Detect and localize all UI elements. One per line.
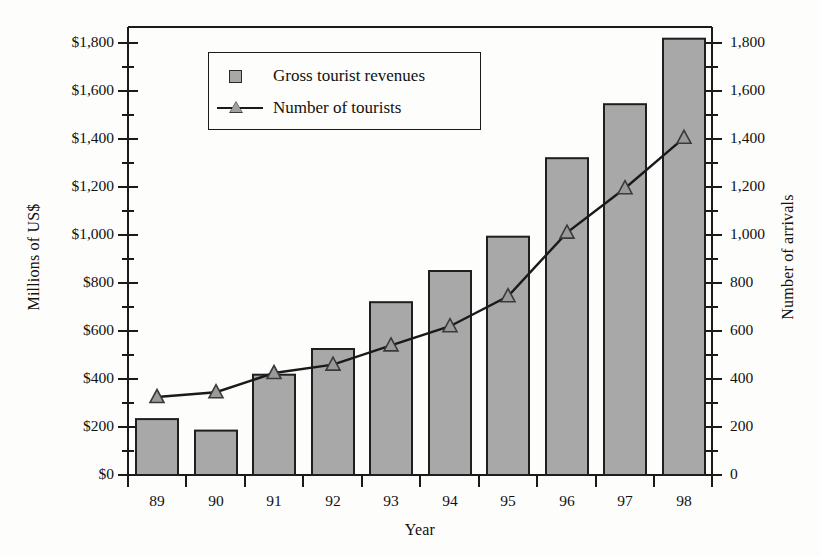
bar-95 bbox=[487, 237, 529, 475]
bar-98 bbox=[663, 39, 705, 475]
chart-figure: $0 $200 $400 $600 $800 $1,000 $1,200 $1,… bbox=[0, 0, 820, 557]
bar-90 bbox=[195, 431, 237, 475]
bar-94 bbox=[429, 271, 471, 475]
xtick-94: 94 bbox=[426, 492, 474, 510]
xtick-98: 98 bbox=[660, 492, 708, 510]
y-axis-title-left: Millions of US$ bbox=[25, 157, 43, 357]
ytick-left-1600: $1,600 bbox=[22, 81, 114, 99]
bar-91 bbox=[253, 375, 295, 475]
xtick-97: 97 bbox=[601, 492, 649, 510]
legend-key-line bbox=[209, 93, 273, 123]
x-axis-ticks bbox=[128, 475, 712, 487]
ytick-right-200: 200 bbox=[730, 417, 800, 435]
ytick-left-400: $400 bbox=[22, 369, 114, 387]
y-axis-title-right: Number of arrivals bbox=[779, 157, 797, 357]
bar-96 bbox=[546, 158, 588, 475]
ytick-left-200: $200 bbox=[22, 417, 114, 435]
legend-label-tourists: Number of tourists bbox=[273, 98, 401, 118]
ytick-right-1800: 1,800 bbox=[730, 33, 800, 51]
ytick-right-1400: 1,400 bbox=[730, 129, 800, 147]
bar-97 bbox=[604, 104, 646, 475]
xtick-91: 91 bbox=[250, 492, 298, 510]
bar-93 bbox=[370, 302, 412, 475]
ytick-right-1600: 1,600 bbox=[730, 81, 800, 99]
xtick-92: 92 bbox=[309, 492, 357, 510]
ytick-left-1400: $1,400 bbox=[22, 129, 114, 147]
ytick-left-0: $0 bbox=[22, 465, 114, 483]
x-axis-title: Year bbox=[128, 521, 712, 539]
ytick-left-1800: $1,800 bbox=[22, 33, 114, 51]
legend-item-gross-tourist-revenues[interactable]: Gross tourist revenues bbox=[209, 59, 480, 93]
xtick-95: 95 bbox=[484, 492, 532, 510]
xtick-96: 96 bbox=[543, 492, 591, 510]
triangle-marker-icon bbox=[230, 102, 242, 112]
legend-label-revenues: Gross tourist revenues bbox=[273, 66, 425, 86]
legend-key-bar bbox=[209, 61, 273, 91]
xtick-90: 90 bbox=[192, 492, 240, 510]
ytick-right-400: 400 bbox=[730, 369, 800, 387]
square-swatch-icon bbox=[229, 70, 242, 83]
legend-item-number-of-tourists[interactable]: Number of tourists bbox=[209, 91, 480, 125]
ytick-right-0: 0 bbox=[730, 465, 800, 483]
xtick-93: 93 bbox=[367, 492, 415, 510]
xtick-89: 89 bbox=[133, 492, 181, 510]
bar-89 bbox=[136, 419, 178, 475]
chart-legend: Gross tourist revenues Number of tourist… bbox=[208, 52, 481, 130]
